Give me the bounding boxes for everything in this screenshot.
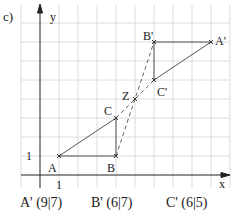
x-tick-label: 1 [56, 178, 62, 190]
point-b-prime-label: B' [143, 29, 153, 43]
y-tick-label: 1 [26, 149, 32, 163]
answer-c-prime: C' (6|5) [166, 195, 208, 211]
point-a-prime-label: A' [215, 34, 226, 48]
point-c-label: C [104, 104, 112, 118]
point-c-prime-label: C' [157, 85, 167, 99]
point-b-label: B [107, 161, 115, 175]
coordinate-grid: y x 1 1 A B C Z A' B' C' [0, 0, 232, 190]
y-axis-label: y [50, 10, 56, 24]
point-z-label: Z [122, 89, 129, 103]
point-a-label: A [48, 161, 57, 175]
answer-b-prime: B' (6|7) [91, 195, 133, 211]
answer-a-prime: A' (9|7) [20, 195, 62, 211]
x-axis-label: x [219, 177, 225, 190]
